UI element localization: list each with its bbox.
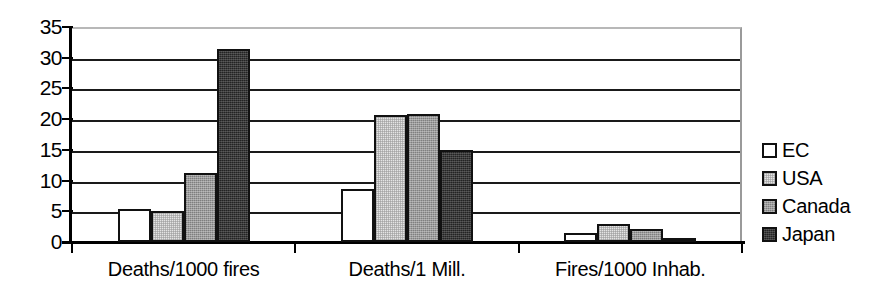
x-tick-mark (518, 242, 520, 253)
y-tick-label: 5 (51, 199, 62, 223)
bar-ec (341, 189, 374, 242)
bar-usa (151, 211, 184, 242)
bar-canada (630, 229, 663, 243)
y-tick-label: 35 (40, 15, 62, 39)
y-tick-label: 0 (51, 230, 62, 254)
bar-japan (440, 150, 473, 242)
legend-swatch-icon (762, 227, 777, 242)
y-axis-labels: 35 30 25 20 15 10 5 0 (10, 0, 62, 300)
x-tick-mark (71, 242, 73, 253)
legend-label: Japan (782, 223, 835, 246)
y-tick-mark (62, 210, 73, 212)
x-tick-mark (294, 242, 296, 253)
legend-item-japan: Japan (762, 220, 850, 248)
y-tick-label: 15 (40, 138, 62, 162)
y-tick-mark (62, 149, 73, 151)
y-tick-mark (62, 118, 73, 120)
legend-item-canada: Canada (762, 192, 850, 220)
legend: EC USA Canada Japan (762, 136, 850, 248)
x-tick-mark (741, 242, 743, 253)
y-tick-label: 30 (40, 46, 62, 70)
x-category-label: Deaths/1 Mill. (349, 258, 466, 281)
legend-label: USA (782, 167, 822, 190)
bar-ec (564, 233, 597, 242)
y-tick-mark (62, 87, 73, 89)
bar-canada (407, 114, 440, 242)
legend-swatch-icon (762, 171, 777, 186)
bar-japan (663, 238, 696, 242)
y-tick-label: 20 (40, 107, 62, 131)
y-tick-mark (62, 57, 73, 59)
y-tick-mark (62, 26, 73, 28)
legend-label: EC (782, 139, 809, 162)
legend-swatch-icon (762, 143, 777, 158)
x-category-label: Fires/1000 Inhab. (555, 258, 706, 281)
bar-usa (597, 224, 630, 242)
y-tick-label: 25 (40, 76, 62, 100)
bar-usa (374, 115, 407, 242)
legend-label: Canada (782, 195, 850, 218)
y-tick-mark (62, 180, 73, 182)
bar-chart: 35 30 25 20 15 10 5 0 EC USA Canada Japa… (0, 0, 884, 300)
legend-swatch-icon (762, 199, 777, 214)
y-tick-label: 10 (40, 169, 62, 193)
bar-canada (184, 173, 217, 242)
bars-layer (72, 27, 742, 242)
legend-item-ec: EC (762, 136, 850, 164)
bar-japan (217, 49, 250, 242)
legend-item-usa: USA (762, 164, 850, 192)
bar-ec (118, 209, 151, 242)
x-category-label: Deaths/1000 fires (108, 258, 260, 281)
